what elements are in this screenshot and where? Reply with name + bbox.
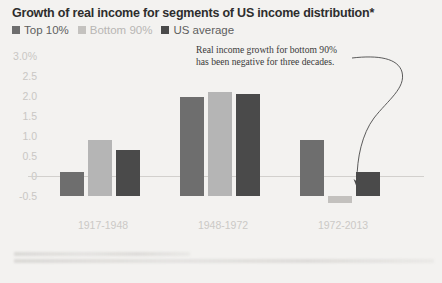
legend-item-top-10: Top 10%	[12, 24, 69, 36]
bar-group-1948-1972	[180, 76, 266, 196]
y-tick-label: 2.0	[22, 90, 37, 102]
legend-swatch-us-average	[161, 26, 169, 34]
legend-swatch-top-10	[12, 26, 20, 34]
bar-group-1917-1948	[60, 76, 146, 196]
plot-area: 3.0% 2.5 2.0 1.5 1.0 0.5 0 -0.5 1917-194	[42, 56, 428, 196]
bar-bottom-90-negative	[328, 196, 352, 203]
y-tick-label: 1.0	[22, 130, 37, 142]
bar-top-10	[180, 97, 204, 196]
chart-legend: Top 10% Bottom 90% US average	[12, 24, 234, 36]
annotation-line-1: Real income growth for bottom 90%	[196, 44, 337, 56]
chart-source-note	[14, 252, 434, 266]
bar-us-average	[116, 150, 140, 196]
legend-swatch-bottom-90	[78, 26, 86, 34]
legend-item-bottom-90: Bottom 90%	[78, 24, 153, 36]
chart-annotation: Real income growth for bottom 90% has be…	[196, 44, 337, 69]
bar-us-average	[236, 94, 260, 196]
legend-label-bottom-90: Bottom 90%	[90, 24, 153, 36]
chart-figure: Growth of real income for segments of US…	[0, 0, 442, 283]
y-tick-label: -0.5	[19, 190, 37, 202]
legend-label-top-10: Top 10%	[24, 24, 69, 36]
x-category-label-1917-1948: 1917-1948	[78, 219, 128, 231]
legend-item-us-average: US average	[161, 24, 234, 36]
bar-top-10	[300, 140, 324, 196]
source-note-line	[14, 259, 434, 263]
bar-group-1972-2013	[300, 76, 386, 196]
y-tick-label: 1.5	[22, 110, 37, 122]
y-tick-label: 0.5	[22, 150, 37, 162]
bar-bottom-90	[208, 92, 232, 196]
y-tick-label: 2.5	[22, 70, 37, 82]
x-category-label-1972-2013: 1972-2013	[318, 219, 368, 231]
source-note-line	[14, 252, 190, 256]
chart-title: Growth of real income for segments of US…	[12, 6, 374, 20]
bar-bottom-90	[88, 140, 112, 196]
legend-label-us-average: US average	[173, 24, 234, 36]
annotation-line-2: has been negative for three decades.	[196, 56, 337, 68]
bar-top-10	[60, 172, 84, 196]
x-category-label-1948-1972: 1948-1972	[198, 219, 248, 231]
bar-us-average	[356, 172, 380, 196]
y-tick-label: 3.0%	[13, 50, 37, 62]
